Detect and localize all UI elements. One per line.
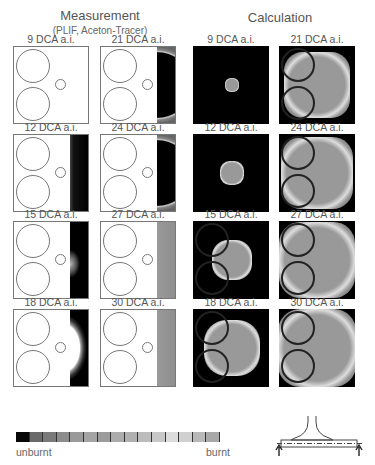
calculation-panel — [279, 221, 355, 299]
legend-swatch — [84, 432, 98, 442]
intake-valve-outline — [195, 223, 229, 257]
intake-valve-outline — [16, 312, 50, 346]
engine-schematic-icon — [275, 414, 365, 459]
intake-valve-outline — [16, 224, 50, 258]
intake-valve-outline — [103, 224, 137, 258]
exhaust-valve-outline — [16, 262, 50, 296]
spark-plug-outline — [55, 342, 66, 353]
calculation-panel — [279, 309, 355, 387]
panel-label: 24 DCA a.i. — [277, 121, 357, 133]
color-legend — [16, 432, 220, 442]
exhaust-valve-outline — [16, 175, 50, 209]
exhaust-valve-outline — [281, 86, 315, 120]
exhaust-valve-outline — [281, 261, 315, 295]
exhaust-valve-outline — [103, 87, 137, 121]
exhaust-valve-outline — [195, 349, 229, 383]
burn-strip — [157, 135, 175, 211]
panel-label: 24 DCA a.i. — [98, 121, 178, 133]
measurement-panel — [100, 134, 176, 212]
measurement-panel — [13, 221, 89, 299]
panel-label: 12 DCA a.i. — [191, 121, 271, 133]
exhaust-valve-outline — [103, 175, 137, 209]
exhaust-valve-outline — [281, 174, 315, 208]
intake-valve-outline — [281, 48, 315, 82]
exhaust-valve-outline — [281, 349, 315, 383]
flame-front — [225, 78, 239, 92]
legend-unburnt-label: unburnt — [16, 446, 52, 458]
legend-swatch — [70, 432, 84, 442]
legend-swatch — [166, 432, 180, 442]
calculation-panel — [193, 46, 269, 124]
measurement-panel — [100, 46, 176, 124]
legend-swatch — [43, 432, 57, 442]
legend-burnt-label: burnt — [206, 446, 230, 458]
exhaust-valve-outline — [16, 350, 50, 384]
legend-swatch — [206, 432, 220, 442]
legend-swatch — [57, 432, 71, 442]
spark-plug-outline — [142, 167, 153, 178]
intake-valve-outline — [281, 311, 315, 345]
spark-plug-outline — [55, 254, 66, 265]
legend-swatch — [98, 432, 112, 442]
intake-valve-outline — [103, 137, 137, 171]
measurement-panel — [13, 134, 89, 212]
panel-label: 15 DCA a.i. — [191, 208, 271, 220]
spark-plug-outline — [55, 79, 66, 90]
legend-swatch — [152, 432, 166, 442]
spark-plug-outline — [55, 167, 66, 178]
measurement-panel — [100, 309, 176, 387]
panel-label: 30 DCA a.i. — [98, 296, 178, 308]
panel-label: 9 DCA a.i. — [11, 33, 91, 45]
intake-valve-outline — [16, 137, 50, 171]
legend-swatch — [193, 432, 207, 442]
burn-strip — [70, 222, 88, 298]
intake-valve-outline — [281, 136, 315, 170]
panel-label: 27 DCA a.i. — [98, 208, 178, 220]
exhaust-valve-outline — [103, 262, 137, 296]
legend-swatch — [125, 432, 139, 442]
flame-front — [220, 161, 244, 185]
calculation-panel — [279, 46, 355, 124]
spark-plug-outline — [142, 254, 153, 265]
calculation-panel — [193, 309, 269, 387]
exhaust-valve-outline — [195, 261, 229, 295]
panel-label: 12 DCA a.i. — [11, 121, 91, 133]
intake-valve-outline — [16, 49, 50, 83]
measurement-panel — [13, 46, 89, 124]
burn-strip — [70, 310, 88, 386]
burn-strip — [157, 222, 175, 298]
calculation-panel — [193, 221, 269, 299]
panel-label: 27 DCA a.i. — [277, 208, 357, 220]
legend-swatch — [111, 432, 125, 442]
measurement-panel — [13, 309, 89, 387]
panel-label: 21 DCA a.i. — [98, 33, 178, 45]
burn-strip — [70, 135, 88, 211]
measurement-panel — [100, 221, 176, 299]
legend-swatch — [16, 432, 30, 442]
panel-label: 9 DCA a.i. — [191, 33, 271, 45]
exhaust-valve-outline — [103, 350, 137, 384]
panel-label: 18 DCA a.i. — [191, 296, 271, 308]
legend-swatch — [138, 432, 152, 442]
burn-strip — [157, 47, 175, 123]
calculation-panel — [279, 134, 355, 212]
intake-valve-outline — [281, 223, 315, 257]
measurement-title: Measurement — [30, 8, 170, 23]
legend-swatch — [30, 432, 44, 442]
legend-swatch — [179, 432, 193, 442]
panel-label: 15 DCA a.i. — [11, 208, 91, 220]
calculation-panel — [193, 134, 269, 212]
panel-label: 21 DCA a.i. — [277, 33, 357, 45]
panel-label: 30 DCA a.i. — [277, 296, 357, 308]
exhaust-valve-outline — [16, 87, 50, 121]
intake-valve-outline — [103, 312, 137, 346]
intake-valve-outline — [195, 311, 229, 345]
burn-strip — [157, 310, 175, 386]
calculation-title: Calculation — [220, 10, 340, 25]
spark-plug-outline — [142, 79, 153, 90]
intake-valve-outline — [103, 49, 137, 83]
panel-label: 18 DCA a.i. — [11, 296, 91, 308]
spark-plug-outline — [142, 342, 153, 353]
